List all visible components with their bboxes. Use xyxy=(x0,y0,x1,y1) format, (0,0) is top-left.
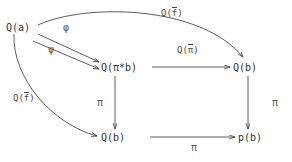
edge-label-q-f-bar-top-suffix: ) xyxy=(177,8,182,18)
edge-label-q-pi-bar-suffix: ) xyxy=(193,45,198,55)
edge-label-q-pi-bar-overline: π xyxy=(188,45,193,55)
node-p-b: p(b) xyxy=(238,132,262,143)
node-q-a: Q(a) xyxy=(6,22,30,33)
edge-label-q-f-bar-top: Q(f) xyxy=(161,8,183,18)
edge-label-q-f-bar-top-overline: f xyxy=(172,8,177,18)
edge-label-pi-right: π xyxy=(272,98,278,108)
edge-label-phi: φ xyxy=(63,23,69,33)
node-q-b-right: Q(b) xyxy=(233,62,257,73)
edge-label-q-f-bar-left-suffix: ) xyxy=(29,93,34,103)
edge-psi-arrow xyxy=(33,41,99,69)
edge-label-pi-bottom: π xyxy=(191,143,197,153)
edge-label-q-f-bar-left: Q(f) xyxy=(13,93,35,103)
edge-qfbar-top-arrow xyxy=(38,12,243,57)
edge-label-q-f-bar-left-prefix: Q( xyxy=(13,93,24,103)
edge-label-q-f-bar-left-overline: f xyxy=(24,93,29,103)
node-q-pi-star-b: Q(π*b) xyxy=(101,62,137,73)
edge-label-q-f-bar-top-prefix: Q( xyxy=(161,8,172,18)
edge-label-pi-middle: π xyxy=(97,98,103,108)
node-q-b-bottom: Q(b) xyxy=(101,132,125,143)
commutative-diagram: Q(a) Q(π*b) Q(b) Q(b) p(b) φ ψ Q(f) Q(f)… xyxy=(0,0,292,162)
edge-label-q-pi-bar-prefix: Q( xyxy=(177,45,188,55)
edge-label-q-pi-bar: Q(π) xyxy=(177,45,199,55)
edge-qfbar-left-arrow xyxy=(14,34,97,136)
edge-label-psi: ψ xyxy=(48,45,54,55)
